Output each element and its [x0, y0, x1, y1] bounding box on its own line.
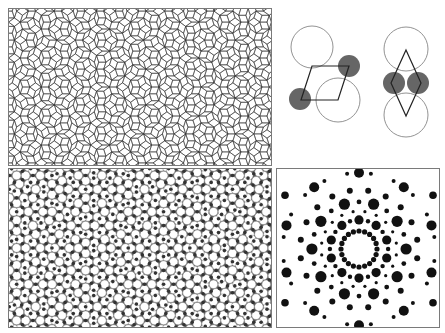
diffraction-pattern-image — [277, 169, 439, 327]
penrose-tiling-panel: Penrose rhombus tiling — [8, 8, 272, 166]
prototiles-panel: Decorated prototiles: fat rhombus and th… — [276, 0, 445, 166]
fat-rhombus-tile — [289, 26, 360, 122]
diffraction-panel: Tenfold diffraction pattern — [276, 168, 440, 328]
atomic-packing-image — [9, 169, 271, 327]
atomic-packing-panel: Decorated tiling: atomic packing — [8, 168, 272, 328]
prototiles-image — [276, 0, 445, 166]
penrose-tiling-image — [9, 9, 271, 165]
thin-rhombus-tile — [383, 27, 429, 137]
